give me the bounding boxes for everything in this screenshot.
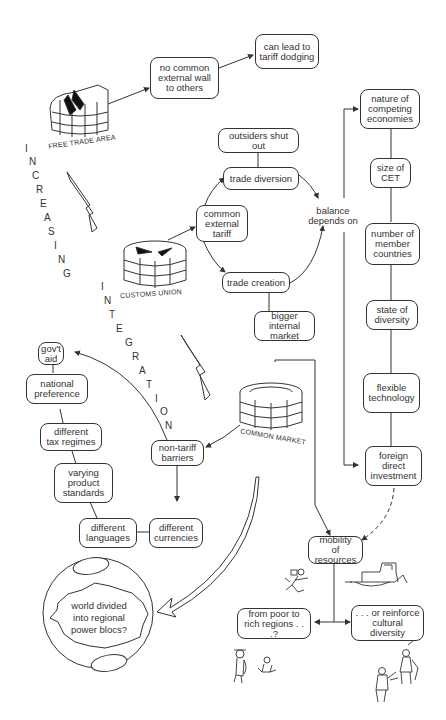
node-world-divided: world divided into regional power blocs?	[68, 600, 130, 636]
node-number-member-countries: number of member countries	[365, 223, 420, 265]
common-market-tower-icon	[240, 383, 302, 430]
node-varying-product-standards: varying product standards	[54, 463, 113, 503]
arrow-cm-to-nontariff	[206, 425, 240, 447]
customs-union-tower-icon	[124, 241, 186, 288]
node-different-languages: different languages	[79, 518, 137, 548]
arrow-cu-to-cet	[168, 227, 195, 240]
node-flexible-technology: flexible technology	[363, 373, 420, 413]
warrior-figure-icon	[400, 640, 418, 684]
node-reinforce-cultural-diversity: . . . or reinforce cultural diversity	[351, 605, 424, 641]
node-trade-diversion: trade diversion	[223, 167, 299, 190]
arrow-mobility-to-poor-rich	[315, 563, 334, 622]
node-state-of-diversity: state of diversity	[366, 300, 418, 330]
running-worker-icon	[285, 569, 308, 592]
node-common-external-tariff: common external tariff	[196, 205, 248, 242]
seated-figure-icon	[258, 657, 276, 672]
node-mobility-of-resources: mobility of resources	[308, 536, 363, 564]
arrow-fdi-to-mobility-dashed	[362, 488, 394, 540]
node-nature-competing-economies: nature of competing economies	[360, 89, 420, 129]
tourist-figure-icon	[234, 650, 246, 683]
arrow-balance-to-nature	[344, 109, 358, 198]
arrow-fta-to-no-common-wall	[108, 88, 149, 104]
node-national-preference: national preference	[26, 374, 88, 404]
node-size-of-cet: size of CET	[370, 158, 411, 188]
arrow-diversion-to-balance	[299, 175, 318, 198]
node-bigger-internal-market: bigger internal market	[254, 311, 315, 341]
node-outsiders-shut-out: outsiders shut out	[218, 128, 299, 153]
arrow-cet-to-creation	[203, 240, 225, 272]
arrow-cet-to-diversion	[205, 178, 224, 205]
node-different-tax-regimes: different tax regimes	[40, 423, 102, 451]
arrow-to-tariff-dodging	[219, 55, 253, 68]
node-trade-creation: trade creation	[222, 272, 290, 293]
node-balance-depends-on: balance depends on	[304, 206, 362, 226]
arrow-balance-to-fdi	[344, 232, 358, 465]
node-govt-aid: gov't aid	[38, 342, 64, 365]
node-from-poor-to-rich: from poor to rich regions . . .?	[237, 608, 311, 639]
node-foreign-direct-investment: foreign direct investment	[365, 446, 422, 486]
zigzag-arrow-2	[181, 335, 210, 400]
node-no-common-wall: no common external wall to others	[150, 57, 219, 99]
node-non-tariff-barriers: non-tariff barriers	[151, 440, 204, 466]
zigzag-arrow-1	[67, 172, 97, 232]
arrow-creation-to-balance	[290, 226, 323, 283]
piper-figure-icon	[376, 668, 398, 703]
free-trade-area-tower-icon	[50, 85, 108, 137]
node-tariff-dodging: can lead to tariff dodging	[255, 34, 319, 69]
bulldozer-icon	[345, 563, 407, 586]
node-different-currencies: different currencies	[149, 518, 203, 548]
